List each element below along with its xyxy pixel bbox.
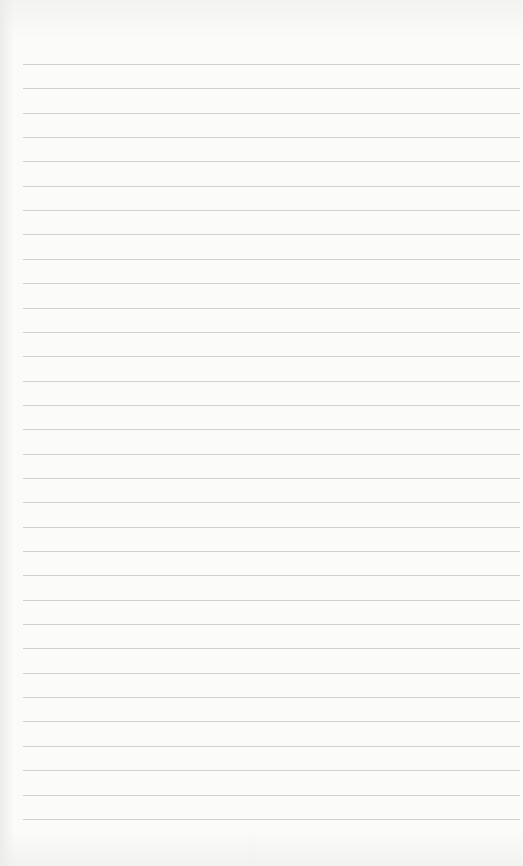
ruled-line xyxy=(23,673,520,674)
ruled-line xyxy=(23,527,520,528)
ruled-line xyxy=(23,332,520,333)
ruled-line xyxy=(23,551,520,552)
ruled-line xyxy=(23,454,520,455)
ruled-line xyxy=(23,502,520,503)
ruled-line xyxy=(23,88,520,89)
ruled-line xyxy=(23,746,520,747)
ruled-line xyxy=(23,113,520,114)
ruled-line xyxy=(23,210,520,211)
ruled-line xyxy=(23,575,520,576)
ruled-line xyxy=(23,405,520,406)
ruled-line xyxy=(23,600,520,601)
ruled-line xyxy=(23,283,520,284)
ruled-line xyxy=(23,381,520,382)
ruled-line xyxy=(23,356,520,357)
ruled-line xyxy=(23,697,520,698)
ruled-line xyxy=(23,819,520,820)
lined-paper-sheet xyxy=(0,0,523,866)
ruled-line xyxy=(23,137,520,138)
ruled-line xyxy=(23,234,520,235)
ruled-line xyxy=(23,186,520,187)
ruled-line xyxy=(23,795,520,796)
ruled-line xyxy=(23,624,520,625)
ruled-line xyxy=(23,648,520,649)
ruled-line xyxy=(23,770,520,771)
ruled-line xyxy=(23,64,520,65)
ruled-line xyxy=(23,259,520,260)
ruled-line xyxy=(23,478,520,479)
ruled-line xyxy=(23,308,520,309)
ruled-line xyxy=(23,429,520,430)
ruled-line xyxy=(23,721,520,722)
ruled-line xyxy=(23,161,520,162)
